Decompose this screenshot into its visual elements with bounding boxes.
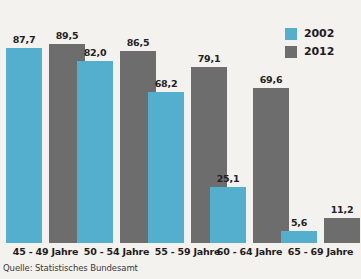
legend-label: 2012 (304, 45, 334, 58)
bar-group: 25,169,6 (210, 0, 289, 243)
bar-2002-50-54Jahre[interactable] (77, 61, 113, 243)
bar-2012-65-69Jahre[interactable] (324, 218, 360, 243)
bar-value-label: 68,2 (148, 79, 184, 89)
bar-value-label: 87,7 (6, 35, 42, 45)
bar-group: 87,789,5 (6, 0, 85, 243)
bar-2002-60-64Jahre[interactable] (210, 187, 246, 243)
legend-item-2012[interactable]: 2012 (285, 44, 351, 59)
source-note: Quelle: Statistisches Bundesamt (3, 263, 138, 273)
bar-value-label: 82,0 (77, 48, 113, 58)
bar-2002-55-59Jahre[interactable] (148, 92, 184, 243)
bar-value-label: 5,6 (281, 218, 317, 228)
x-axis-label: 65 - 69 Jahre (281, 246, 361, 257)
x-axis-label: 60 - 64 Jahre (210, 246, 290, 257)
bar-value-label: 11,2 (324, 205, 360, 215)
x-axis-label: 50 - 54 Jahre (77, 246, 157, 257)
legend-swatch-icon (285, 28, 297, 40)
legend-swatch-icon (285, 46, 297, 58)
bar-2002-65-69Jahre[interactable] (281, 231, 317, 243)
bar-group: 82,086,5 (77, 0, 156, 243)
legend-label: 2002 (304, 27, 334, 40)
legend-item-2002[interactable]: 2002 (285, 26, 351, 41)
x-axis-labels: 45 - 49 Jahre50 - 54 Jahre55 - 59 Jahre6… (0, 246, 359, 262)
bar-value-label: 25,1 (210, 174, 246, 184)
bar-2002-45-49Jahre[interactable] (6, 48, 42, 243)
x-axis-label: 45 - 49 Jahre (6, 246, 86, 257)
chart-legend: 20022012 (285, 26, 351, 62)
